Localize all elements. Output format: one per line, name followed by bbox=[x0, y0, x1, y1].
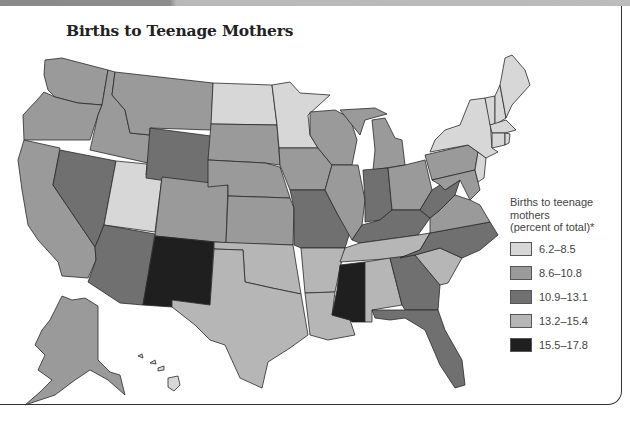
state-wy bbox=[146, 128, 211, 187]
state-co bbox=[155, 177, 228, 243]
state-nd bbox=[211, 83, 277, 125]
state-me bbox=[500, 55, 530, 118]
state-ak bbox=[25, 296, 125, 405]
legend-swatch bbox=[510, 338, 532, 352]
state-hi bbox=[168, 376, 180, 391]
legend-swatch bbox=[510, 242, 532, 256]
legend-swatch bbox=[510, 266, 532, 280]
legend-item-6-2-8-5: 6.2–8.5 bbox=[510, 240, 620, 258]
legend-item-15-5-17-8: 15.5–17.8 bbox=[510, 336, 620, 354]
map-legend: Births to teenage mothers (percent of to… bbox=[510, 196, 620, 354]
state-ri bbox=[505, 133, 510, 145]
state-hi-islands bbox=[138, 354, 164, 371]
legend-title: Births to teenage mothers (percent of to… bbox=[510, 196, 620, 234]
state-ct bbox=[492, 133, 505, 148]
legend-swatch bbox=[510, 314, 532, 328]
legend-item-13-2-15-4: 13.2–15.4 bbox=[510, 312, 620, 330]
state-ks bbox=[226, 196, 294, 245]
state-sd bbox=[208, 124, 280, 165]
states-layer bbox=[18, 55, 530, 405]
legend-item-10-9-13-1: 10.9–13.1 bbox=[510, 288, 620, 306]
legend-item-8-6-10-8: 8.6–10.8 bbox=[510, 264, 620, 282]
state-nm bbox=[143, 236, 214, 307]
state-fl bbox=[372, 310, 465, 388]
legend-swatch bbox=[510, 290, 532, 304]
